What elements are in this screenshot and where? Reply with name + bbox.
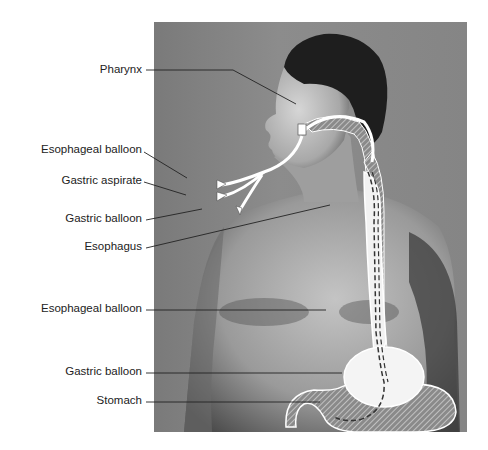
label-esophageal-balloon: Esophageal balloon: [41, 302, 142, 314]
leader-lines: [0, 0, 488, 450]
leader-esophagus: [146, 205, 330, 248]
label-esophagus: Esophagus: [84, 240, 142, 252]
label-esophageal-balloon-port: Esophageal balloon: [41, 143, 142, 155]
leader-gastric-balloon-port: [146, 209, 202, 220]
label-gastric-balloon: Gastric balloon: [65, 365, 142, 377]
leader-gastric-aspirate: [144, 182, 186, 195]
leader-pharynx: [146, 70, 296, 104]
label-stomach: Stomach: [97, 394, 142, 406]
label-gastric-aspirate: Gastric aspirate: [61, 174, 142, 186]
label-gastric-balloon-port: Gastric balloon: [65, 212, 142, 224]
label-pharynx: Pharynx: [100, 63, 142, 75]
leader-esophageal-balloon-port: [144, 152, 187, 178]
